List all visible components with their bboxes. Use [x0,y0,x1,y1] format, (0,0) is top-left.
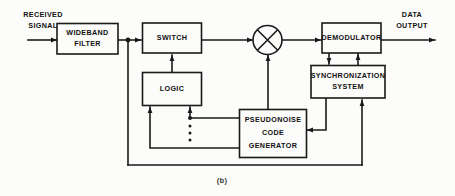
ellipsis-dot-2 [189,132,192,135]
block-label-demodulator: DEMODULATOR [322,33,382,42]
block-diagram-figure: WIDEBAND FILTER SWITCH DEMODULATOR SYNCH… [0,0,455,196]
block-label-sync-system-line1: SYNCHRONIZATION [311,71,386,80]
received-signal-line2: SIGNAL [28,21,58,30]
wire-sync-system-to-pn-generator [307,98,326,130]
block-demodulator[interactable]: DEMODULATOR [322,23,382,53]
block-label-pn-line1: PSEUDONOISE [245,115,302,124]
ellipsis-dot-1 [189,125,192,128]
diagram-canvas: WIDEBAND FILTER SWITCH DEMODULATOR SYNCH… [0,0,455,196]
wire-pn-generator-to-logic-lower [150,107,240,148]
received-signal-line1: RECEIVED [23,10,63,19]
junction-dot-pn-upper-tap [188,116,192,120]
data-output-line1: DATA [402,10,422,19]
block-switch[interactable]: SWITCH [143,23,202,53]
block-label-wideband-filter-line1: WIDEBAND [66,28,108,37]
label-data-output: DATA OUTPUT [396,10,428,30]
block-label-logic: LOGIC [160,84,185,93]
block-logic[interactable]: LOGIC [143,73,202,106]
label-received-signal: RECEIVED SIGNAL [23,10,63,30]
block-mixer[interactable] [253,26,282,55]
block-label-pn-line2: CODE [262,128,284,137]
figure-caption: (b) [217,176,228,185]
block-label-switch: SWITCH [157,33,187,42]
block-pseudonoise-code-generator[interactable]: PSEUDONOISE CODE GENERATOR [240,110,307,158]
data-output-line2: OUTPUT [396,21,428,30]
block-label-pn-line3: GENERATOR [249,141,298,150]
ellipsis-dot-3 [189,139,192,142]
block-label-wideband-filter-line2: FILTER [74,39,101,48]
block-label-sync-system-line2: SYSTEM [332,82,364,91]
wire-pn-generator-to-logic-upper [190,107,240,118]
block-synchronization-system[interactable]: SYNCHRONIZATION SYSTEM [311,66,386,99]
block-wideband-filter[interactable]: WIDEBAND FILTER [57,24,118,55]
